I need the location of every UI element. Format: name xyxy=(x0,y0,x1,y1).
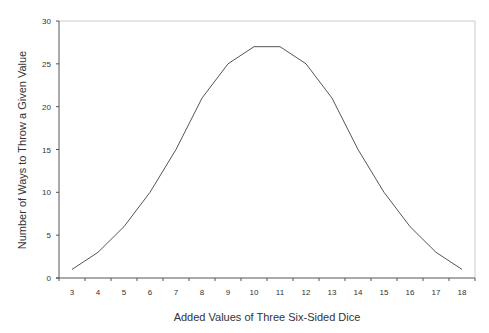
x-axis-title: Added Values of Three Six-Sided Dice xyxy=(174,311,361,323)
y-tick-label: 15 xyxy=(42,146,51,155)
x-tick-label: 11 xyxy=(276,288,285,297)
x-tick-label: 16 xyxy=(406,288,415,297)
x-tick-label: 8 xyxy=(200,288,205,297)
x-tick-label: 17 xyxy=(432,288,441,297)
x-tick-label: 4 xyxy=(96,288,101,297)
x-tick-label: 14 xyxy=(354,288,363,297)
y-tick-label: 10 xyxy=(42,188,51,197)
series-line xyxy=(72,47,462,270)
y-tick-label: 20 xyxy=(42,103,51,112)
x-tick-label: 15 xyxy=(380,288,389,297)
x-tick-label: 10 xyxy=(250,288,259,297)
y-tick-label: 5 xyxy=(47,231,52,240)
x-tick-label: 7 xyxy=(174,288,179,297)
y-axis: 051015202530 xyxy=(42,17,59,283)
x-tick-label: 6 xyxy=(148,288,153,297)
x-tick-label: 12 xyxy=(302,288,311,297)
x-tick-label: 9 xyxy=(226,288,231,297)
y-tick-label: 0 xyxy=(47,274,52,283)
x-tick-label: 18 xyxy=(458,288,467,297)
line-chart: 051015202530 3456789101112131415161718 A… xyxy=(0,0,489,333)
x-tick-label: 13 xyxy=(328,288,337,297)
y-tick-label: 30 xyxy=(42,17,51,26)
y-axis-title: Number of Ways to Throw a Given Value xyxy=(16,51,28,250)
x-tick-label: 3 xyxy=(70,288,75,297)
x-tick-label: 5 xyxy=(122,288,127,297)
x-axis: 3456789101112131415161718 xyxy=(56,278,475,297)
y-tick-label: 25 xyxy=(42,60,51,69)
plot-frame xyxy=(59,21,475,278)
